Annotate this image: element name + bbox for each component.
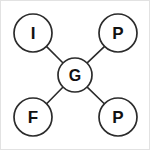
node-label-center: G <box>69 67 81 84</box>
diagram-canvas: I P F P G <box>0 0 150 150</box>
node-top-left[interactable]: I <box>14 14 52 52</box>
node-label-bottom-left: F <box>28 108 38 127</box>
node-bottom-right[interactable]: P <box>99 98 137 136</box>
edge-center-to-bottom-left <box>46 87 62 104</box>
node-label-bottom-right: P <box>112 108 123 127</box>
node-label-top-left: I <box>31 24 36 43</box>
edge-center-to-top-right <box>87 46 104 62</box>
node-label-top-right: P <box>112 24 123 43</box>
star-topology-graph: I P F P G <box>0 0 150 150</box>
edge-center-to-bottom-right <box>87 87 104 104</box>
node-top-right[interactable]: P <box>99 14 137 52</box>
node-center[interactable]: G <box>58 58 92 92</box>
edge-center-to-top-left <box>46 46 62 62</box>
node-bottom-left[interactable]: F <box>14 98 52 136</box>
